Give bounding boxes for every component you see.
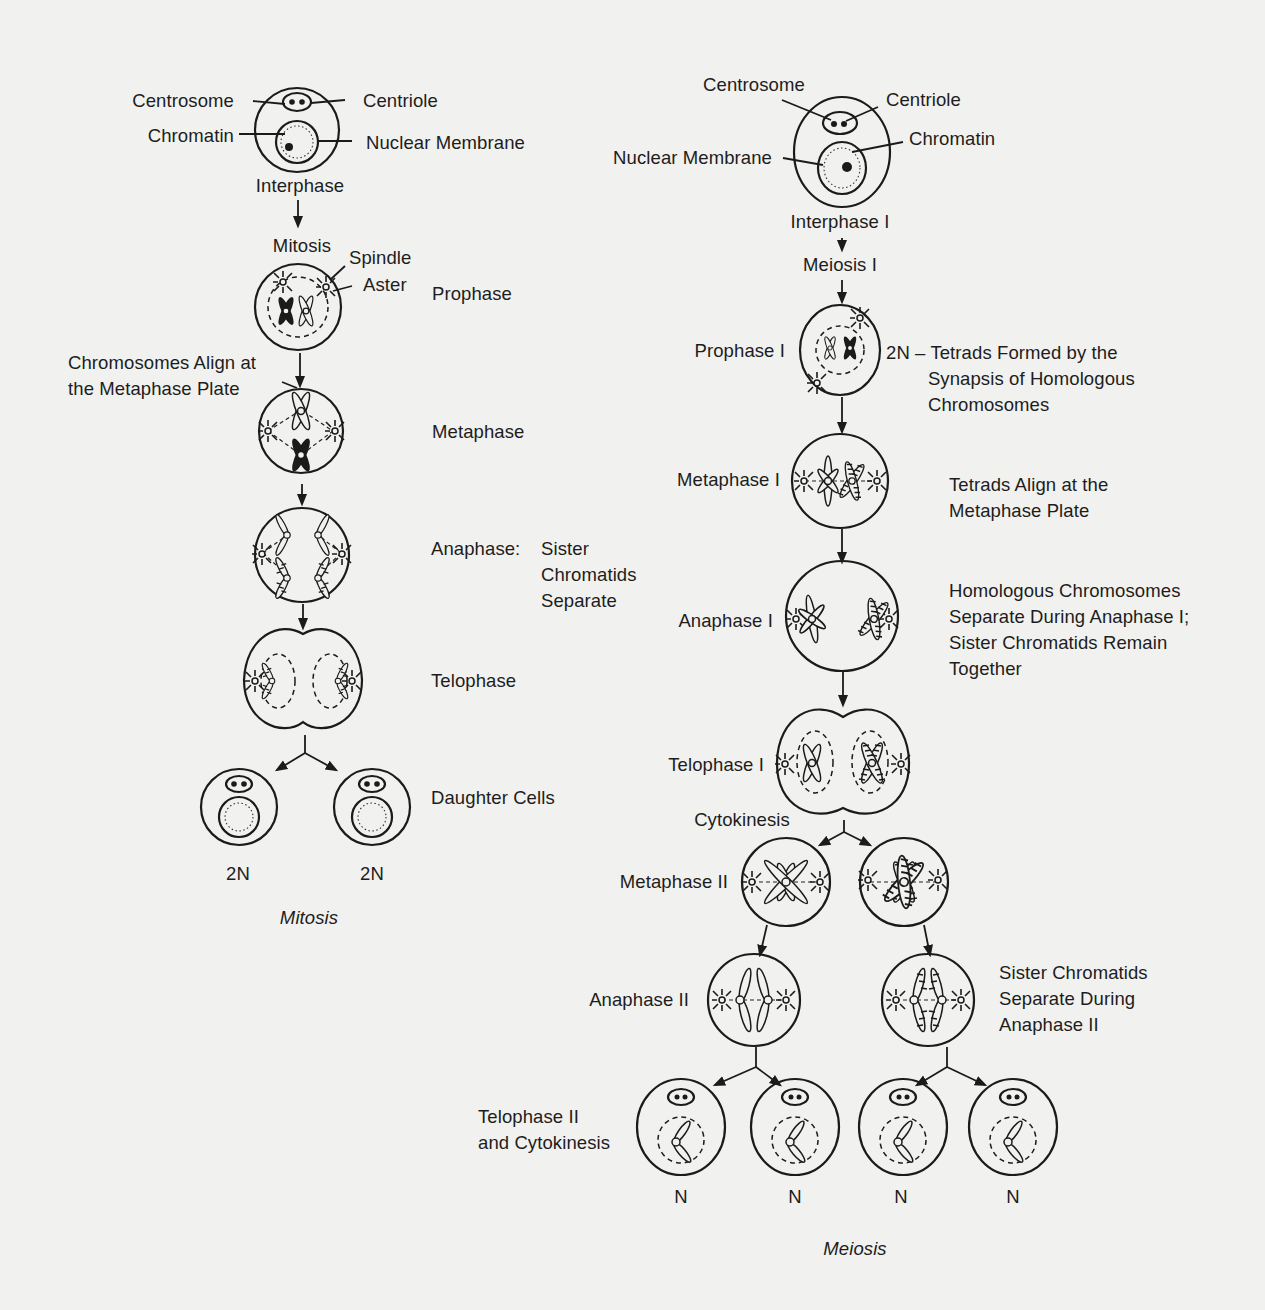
mitosis-anaphase-cell xyxy=(252,508,351,602)
label-mitosis-centriole: Centriole xyxy=(363,88,438,114)
meiosis-metaphase-2-cell-1 xyxy=(742,838,830,926)
label-meiosis-chromatin: Chromatin xyxy=(909,126,995,152)
meiosis-anaphase-2-cell-2 xyxy=(882,954,974,1046)
label-daughter-cells: Daughter Cells xyxy=(431,785,555,811)
meiosis-haploid-cell-4 xyxy=(969,1079,1057,1175)
label-telophase: Telophase xyxy=(431,668,516,694)
label-telophase-1: Telophase I xyxy=(668,752,764,778)
label-prophase-1-note: 2N – Tetrads Formed by the Synapsis of H… xyxy=(886,340,1135,418)
label-metaphase: Metaphase xyxy=(432,419,524,445)
mitosis-metaphase-cell xyxy=(258,389,344,473)
mitosis-daughter-cell-2 xyxy=(334,769,410,845)
label-anaphase-1-note: Homologous Chromosomes Separate During A… xyxy=(949,578,1189,682)
label-meiosis-centrosome: Centrosome xyxy=(703,72,805,98)
label-ploidy-n-2: N xyxy=(788,1184,801,1210)
title-mitosis: Mitosis xyxy=(280,905,338,931)
mitosis-daughter-cell-1 xyxy=(201,769,277,845)
label-mitosis-centrosome: Centrosome xyxy=(132,88,234,114)
label-metaphase-1: Metaphase I xyxy=(677,467,780,493)
meiosis-interphase-cell xyxy=(782,97,903,207)
label-ploidy-n-4: N xyxy=(1006,1184,1019,1210)
label-ploidy-n-1: N xyxy=(674,1184,687,1210)
label-metaphase-2: Metaphase II xyxy=(620,869,728,895)
label-chromosomes-align-note: Chromosomes Align at the Metaphase Plate xyxy=(68,350,256,402)
title-meiosis: Meiosis xyxy=(823,1236,886,1262)
mitosis-telophase-cell xyxy=(244,629,362,728)
label-anaphase-1: Anaphase I xyxy=(678,608,773,634)
label-prophase-1: Prophase I xyxy=(695,338,785,364)
label-aster: Aster xyxy=(363,272,407,298)
meiosis-haploid-cell-2 xyxy=(751,1079,839,1175)
label-meiosis-interphase-1: Interphase I xyxy=(791,209,890,235)
meiosis-haploid-cell-1 xyxy=(637,1079,725,1175)
label-anaphase-2-note: Sister Chromatids Separate During Anapha… xyxy=(999,960,1148,1038)
label-cytokinesis: Cytokinesis xyxy=(694,807,790,833)
mitosis-interphase-cell xyxy=(239,88,352,172)
label-prophase: Prophase xyxy=(432,281,512,307)
label-anaphase: Anaphase: xyxy=(431,536,520,562)
meiosis-prophase-1-cell xyxy=(800,305,880,395)
mitosis-prophase-cell xyxy=(255,264,352,350)
meiosis-haploid-cell-3 xyxy=(859,1079,947,1175)
label-anaphase-note: Sister Chromatids Separate xyxy=(541,536,637,614)
label-meiosis-centriole: Centriole xyxy=(886,87,961,113)
meiosis-metaphase-2-cell-2 xyxy=(858,838,948,926)
label-mitosis-chromatin: Chromatin xyxy=(148,123,234,149)
label-meiosis-1-process: Meiosis I xyxy=(803,252,877,278)
label-mitosis-process: Mitosis xyxy=(273,233,331,259)
meiosis-anaphase-2-cell-1 xyxy=(708,954,800,1046)
label-ploidy-2n-1: 2N xyxy=(226,861,250,887)
label-anaphase-2: Anaphase II xyxy=(589,987,689,1013)
label-telophase-2: Telophase II and Cytokinesis xyxy=(478,1104,610,1156)
label-spindle: Spindle xyxy=(349,245,411,271)
label-mitosis-nuclear-membrane: Nuclear Membrane xyxy=(366,130,525,156)
meiosis-metaphase-1-cell xyxy=(792,434,888,528)
label-ploidy-n-3: N xyxy=(894,1184,907,1210)
label-metaphase-1-note: Tetrads Align at the Metaphase Plate xyxy=(949,472,1108,524)
label-mitosis-interphase: Interphase xyxy=(256,173,344,199)
label-ploidy-2n-2: 2N xyxy=(360,861,384,887)
label-meiosis-nuclear-membrane: Nuclear Membrane xyxy=(613,145,772,171)
meiosis-telophase-1-cell xyxy=(775,710,910,814)
meiosis-anaphase-1-cell xyxy=(786,561,898,671)
